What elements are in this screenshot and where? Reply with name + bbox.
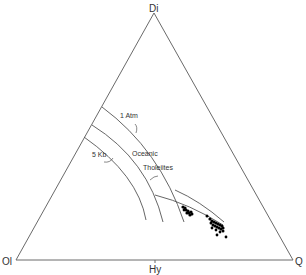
curve-oceanic (92, 125, 163, 222)
label-tholeiites: Tholeiites (143, 164, 173, 171)
ternary-diagram: Di Ol Q Hy 1 Atm 5 Kb Oceanic Tholeiites (0, 0, 306, 275)
leader-tholeiites (150, 176, 158, 180)
label-oceanic: Oceanic (132, 150, 158, 157)
data-cluster-2 (206, 215, 228, 239)
leader-5-kb (104, 158, 113, 162)
vertex-label-di: Di (149, 3, 158, 14)
data-cluster-1 (181, 205, 193, 216)
ternary-triangle (16, 13, 293, 260)
label-5-kb: 5 Kb (92, 151, 107, 158)
vertex-label-q: Q (295, 256, 303, 267)
base-label-hy: Hy (149, 264, 161, 275)
leader-1-atm (135, 124, 137, 133)
vertex-label-ol: Ol (2, 256, 12, 267)
label-1-atm: 1 Atm (120, 112, 138, 119)
